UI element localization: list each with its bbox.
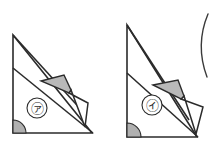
right-edge-arc bbox=[201, 14, 208, 77]
panel-b-right-angle-marker bbox=[127, 123, 141, 137]
panel-a-group: ㋐ bbox=[13, 35, 93, 133]
panel-b-label-text: ㋑ bbox=[146, 98, 159, 113]
panel-a-label-text: ㋐ bbox=[31, 101, 44, 116]
geometry-figure-canvas: ㋐ ㋑ bbox=[0, 0, 212, 144]
panel-a-right-angle-marker bbox=[13, 120, 26, 133]
panel-a-fold-line-upper bbox=[13, 35, 86, 115]
panel-a-shaded-flap bbox=[41, 75, 71, 93]
panel-b-group: ㋑ bbox=[127, 25, 203, 137]
geometry-figure-svg: ㋐ ㋑ bbox=[0, 0, 212, 144]
